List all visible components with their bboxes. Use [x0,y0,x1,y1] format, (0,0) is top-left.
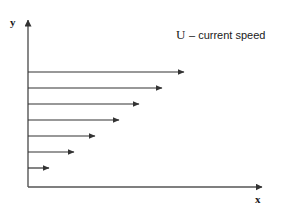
y-axis-label: y [10,17,16,28]
legend-symbol: U [176,27,186,42]
velocity-profile-figure: y x U – current speed [0,0,287,214]
velocity-arrow-group [28,72,184,168]
legend-description: current speed [198,29,265,41]
x-axis-label: x [255,194,261,205]
legend-annotation: U – current speed [176,26,265,42]
